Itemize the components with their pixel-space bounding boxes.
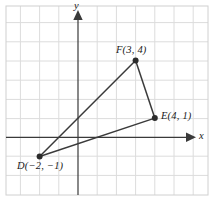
point-f-marker	[133, 58, 139, 64]
point-e-label: E(4, 1)	[161, 110, 192, 121]
x-axis-arrow-icon	[186, 133, 196, 142]
x-axis	[6, 133, 196, 142]
coordinate-plane-figure: F(3, 4) E(4, 1) D(−2, −1) x y	[0, 0, 218, 199]
y-axis-arrow-icon	[73, 10, 82, 20]
point-f-label: F(3, 4)	[116, 44, 147, 55]
y-axis	[73, 10, 82, 195]
y-axis-label: y	[74, 0, 79, 11]
point-e-marker	[152, 115, 158, 121]
point-d-marker	[37, 154, 43, 160]
point-d-label: D(−2, −1)	[17, 160, 63, 171]
x-axis-label: x	[199, 130, 204, 141]
